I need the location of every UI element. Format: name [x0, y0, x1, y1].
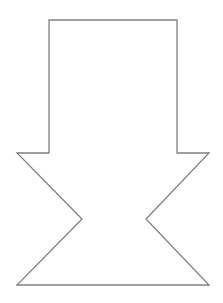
diagram-canvas: [0, 0, 223, 303]
down-arrow-shape: [17, 20, 209, 285]
arrow-shape-svg: [0, 0, 223, 303]
